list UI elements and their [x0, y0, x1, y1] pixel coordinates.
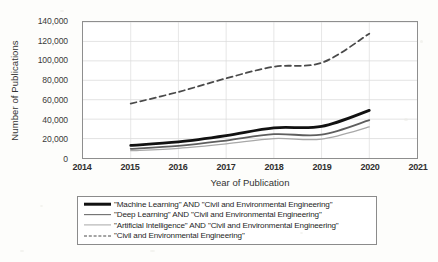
scan-artifact: [300, 232, 303, 234]
x-tick-label: 2016: [168, 162, 187, 172]
series-line-0: [131, 110, 370, 145]
y-tick-label: 0: [22, 154, 68, 164]
legend-swatch-machine-learning-icon: [82, 199, 112, 209]
legend-swatch-civil-environmental-icon: [82, 231, 112, 241]
legend-label-civil-environmental: "Civil and Environmental Engineering": [114, 231, 245, 240]
chart-legend: "Machine Learning" AND "Civil and Enviro…: [77, 196, 377, 245]
publications-line-chart: Number of Publications 020,00040,00060,0…: [0, 0, 438, 262]
series-line-3: [131, 34, 370, 104]
legend-label-deep-learning: "Deep Learning" AND "Civil and Environme…: [114, 210, 322, 219]
y-axis-tick-labels: 020,00040,00060,00080,000100,000120,0001…: [20, 0, 68, 262]
x-tick-label: 2019: [312, 162, 331, 172]
legend-item-deep-learning[interactable]: "Deep Learning" AND "Civil and Environme…: [82, 210, 372, 221]
legend-label-artificial-intelligence: "Artificial Intelligence" AND "Civil and…: [114, 221, 339, 230]
plot-area: [82, 21, 418, 159]
legend-item-civil-environmental[interactable]: "Civil and Environmental Engineering": [82, 231, 372, 242]
scan-artifact: [150, 250, 155, 252]
legend-swatch-artificial-intelligence-icon: [82, 220, 112, 230]
scan-artifact: [404, 118, 408, 121]
x-tick-label: 2014: [72, 162, 91, 172]
y-axis-title-text: Number of Publications: [9, 40, 20, 140]
y-tick-label: 60,000: [22, 95, 68, 105]
scan-artifact: [420, 40, 423, 43]
scan-artifact: [40, 205, 43, 207]
x-tick-label: 2017: [216, 162, 235, 172]
legend-item-machine-learning[interactable]: "Machine Learning" AND "Civil and Enviro…: [82, 199, 372, 210]
x-tick-label: 2021: [408, 162, 427, 172]
y-tick-label: 80,000: [22, 75, 68, 85]
x-tick-label: 2015: [120, 162, 139, 172]
y-tick-label: 40,000: [22, 115, 68, 125]
plot-svg: [83, 22, 417, 158]
y-tick-label: 120,000: [22, 36, 68, 46]
x-axis-title: Year of Publication: [80, 177, 420, 188]
scan-artifact: [20, 250, 24, 252]
legend-swatch-deep-learning-icon: [82, 210, 112, 220]
x-tick-label: 2020: [360, 162, 379, 172]
legend-item-artificial-intelligence[interactable]: "Artificial Intelligence" AND "Civil and…: [82, 220, 372, 231]
series-lines: [131, 34, 370, 151]
y-tick-label: 20,000: [22, 134, 68, 144]
scan-artifact: [60, 10, 64, 12]
y-tick-label: 140,000: [22, 16, 68, 26]
x-tick-label: 2018: [264, 162, 283, 172]
y-axis-title: Number of Publications: [7, 30, 21, 150]
legend-label-machine-learning: "Machine Learning" AND "Civil and Enviro…: [114, 200, 332, 209]
y-tick-label: 100,000: [22, 55, 68, 65]
x-axis-title-text: Year of Publication: [211, 177, 290, 188]
